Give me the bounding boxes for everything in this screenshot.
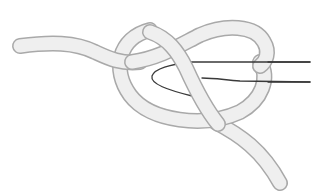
knot-illustration [0,0,325,193]
lower-tail [215,122,280,183]
thin-cord-band [268,62,310,82]
knot-diagram [0,0,325,193]
